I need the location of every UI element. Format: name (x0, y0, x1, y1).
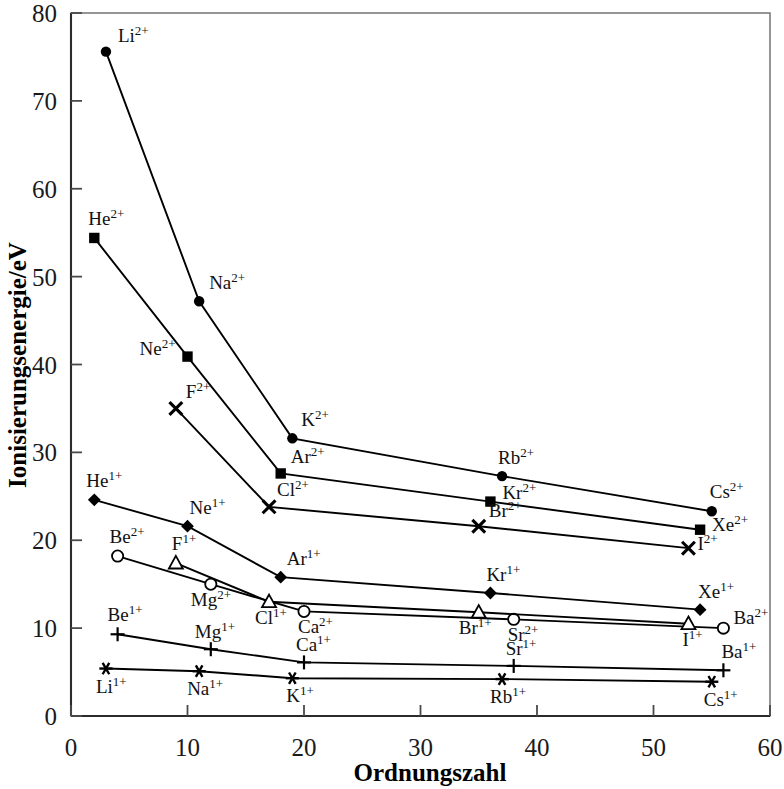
point-label: Na2+ (209, 270, 245, 293)
point-label: F1+ (172, 531, 196, 554)
y-axis-title: Ionisierungsenergie/eV (4, 242, 31, 488)
marker-open-circle (298, 606, 309, 617)
series-0 (101, 46, 717, 516)
point-label: Mg2+ (191, 587, 231, 610)
marker-asterisk (193, 665, 206, 676)
x-tick-label: 20 (292, 734, 317, 761)
point-label: Mg1+ (195, 619, 235, 642)
marker-filled-diamond (274, 571, 287, 584)
series-line (94, 500, 700, 610)
point-label: Ba1+ (721, 639, 756, 662)
marker-plus (507, 659, 521, 673)
marker-cross-x (169, 402, 182, 415)
point-label: Ar1+ (287, 546, 321, 569)
y-tick-label: 10 (32, 615, 57, 642)
marker-asterisk (99, 663, 112, 674)
point-label: I2+ (697, 531, 717, 554)
point-label: Li2+ (118, 23, 149, 46)
point-label: Cl1+ (255, 605, 287, 628)
series-5 (169, 556, 696, 629)
x-axis-ticks: 0102030405060 (65, 705, 783, 761)
series-4 (88, 493, 707, 616)
y-tick-label: 0 (45, 703, 58, 730)
marker-filled-circle (287, 433, 297, 443)
marker-open-circle (508, 614, 519, 625)
marker-open-circle (205, 579, 216, 590)
x-tick-label: 40 (525, 734, 550, 761)
y-tick-label: 30 (32, 439, 57, 466)
x-tick-label: 0 (65, 734, 78, 761)
point-label: Be1+ (108, 602, 143, 625)
point-label: Cl2+ (277, 477, 309, 500)
point-label: He2+ (88, 206, 124, 229)
marker-filled-circle (194, 296, 204, 306)
point-label: I1+ (682, 627, 702, 650)
point-label: Xe1+ (698, 579, 734, 602)
point-label: Rb2+ (498, 445, 534, 468)
point-label: Na1+ (187, 676, 223, 699)
point-label: Li1+ (96, 674, 127, 697)
marker-asterisk (495, 673, 508, 684)
marker-filled-circle (101, 46, 111, 56)
point-label: Ne2+ (140, 336, 176, 359)
point-label: Ar2+ (291, 444, 325, 467)
y-tick-label: 60 (32, 176, 57, 203)
x-tick-label: 30 (408, 734, 433, 761)
y-tick-label: 80 (32, 0, 57, 27)
point-label: F2+ (186, 379, 210, 402)
point-label: Ba2+ (733, 605, 768, 628)
series-1 (89, 233, 705, 535)
series-line (176, 563, 689, 624)
y-tick-label: 40 (32, 352, 57, 379)
x-axis-title: Ordnungszahl (354, 759, 507, 786)
plot-frame (71, 13, 770, 716)
y-tick-label: 20 (32, 527, 57, 554)
point-label: Cs2+ (710, 479, 744, 502)
series-2 (169, 402, 694, 555)
y-tick-label: 70 (32, 88, 57, 115)
chart-svg: 01020304050607080 0102030405060 Li2+Na2+… (0, 0, 784, 789)
marker-plus (204, 642, 218, 656)
marker-filled-square (182, 351, 192, 361)
marker-open-circle (112, 550, 123, 561)
point-label: Sr1+ (506, 636, 537, 659)
marker-filled-circle (497, 471, 507, 481)
point-label: Ca1+ (296, 632, 331, 655)
marker-open-triangle (169, 556, 183, 569)
x-tick-label: 10 (175, 734, 200, 761)
point-label: Ne1+ (190, 495, 226, 518)
marker-plus (716, 663, 730, 677)
ionization-energy-chart: 01020304050607080 0102030405060 Li2+Na2+… (0, 0, 784, 789)
marker-plus (111, 627, 125, 641)
point-label: Br2+ (489, 498, 522, 521)
marker-asterisk (705, 676, 718, 687)
marker-filled-diamond (88, 493, 101, 506)
marker-filled-square (89, 233, 99, 243)
point-label: Be2+ (110, 524, 145, 547)
point-label: K1+ (286, 683, 314, 706)
marker-filled-diamond (694, 603, 707, 616)
series-line (176, 408, 689, 548)
marker-filled-diamond (484, 587, 497, 600)
marker-open-circle (718, 623, 729, 634)
marker-plus (297, 655, 311, 669)
marker-asterisk (286, 672, 299, 683)
series-layer (88, 46, 731, 687)
point-label: K2+ (301, 407, 329, 430)
x-tick-label: 60 (758, 734, 783, 761)
y-tick-label: 50 (32, 264, 57, 291)
point-label: Rb1+ (490, 684, 526, 707)
marker-filled-square (276, 468, 286, 478)
series-line (106, 52, 712, 512)
point-label: He1+ (86, 468, 122, 491)
point-label: Kr1+ (486, 562, 520, 585)
y-axis-ticks: 01020304050607080 (32, 0, 82, 730)
point-label: Br1+ (459, 615, 492, 638)
x-tick-label: 50 (641, 734, 666, 761)
point-label: Cs1+ (704, 687, 738, 710)
